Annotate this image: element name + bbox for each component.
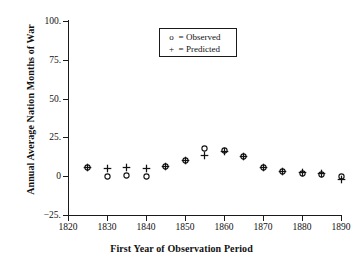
y-tick-label: 50. — [49, 94, 61, 104]
legend-label-predicted: Predicted — [186, 43, 220, 55]
y-tick-label: 25. — [49, 132, 61, 142]
legend-equals-sign: = — [176, 43, 186, 55]
y-tick-label-wrap: −25. — [0, 210, 61, 220]
x-tick-mark — [68, 216, 69, 221]
circle-marker-icon: o — [167, 31, 176, 43]
y-tick-label-wrap: 0 — [0, 171, 61, 181]
x-tick-mark — [302, 216, 303, 221]
y-tick-label: 100. — [44, 16, 61, 26]
x-tick-label: 1840 — [126, 222, 166, 233]
x-tick-label: 1830 — [87, 222, 127, 233]
legend-label-observed: Observed — [186, 31, 221, 43]
y-tick-label: 0 — [56, 171, 61, 181]
x-tick-label: 1850 — [165, 222, 205, 233]
x-tick-label: 1870 — [243, 222, 283, 233]
x-tick-mark — [146, 216, 147, 221]
legend-item-observed: o = Observed — [167, 31, 236, 43]
y-tick-label-wrap: 25. — [0, 132, 61, 142]
legend-equals-sign: = — [176, 31, 186, 43]
x-tick-label: 1820 — [48, 222, 88, 233]
x-axis-line — [68, 215, 342, 216]
chart-legend: o = Observed + = Predicted — [159, 28, 237, 57]
y-tick-label-wrap: 50. — [0, 94, 61, 104]
chart-figure: Annual Average Nation Months of War Firs… — [0, 0, 363, 271]
x-tick-label: 1860 — [204, 222, 244, 233]
y-tick-label-wrap: 100. — [0, 16, 61, 26]
x-tick-mark — [107, 216, 108, 221]
x-axis-title: First Year of Observation Period — [0, 243, 363, 254]
legend-item-predicted: + = Predicted — [167, 43, 236, 55]
y-tick-label-wrap: 75. — [0, 55, 61, 65]
y-tick-label: −25. — [44, 210, 61, 220]
x-tick-mark — [224, 216, 225, 221]
y-axis-title: Annual Average Nation Months of War — [25, 0, 36, 220]
x-tick-mark — [263, 216, 264, 221]
x-tick-mark — [185, 216, 186, 221]
x-tick-mark — [341, 216, 342, 221]
x-tick-label: 1880 — [282, 222, 322, 233]
x-tick-label: 1890 — [321, 222, 361, 233]
y-tick-label: 75. — [49, 55, 61, 65]
plus-marker-icon: + — [167, 43, 176, 55]
